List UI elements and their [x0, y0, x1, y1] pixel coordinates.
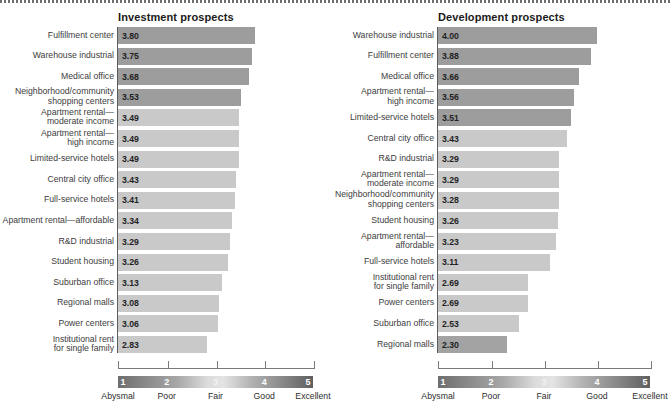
bar-value-label: 3.08 [122, 298, 139, 308]
bar-category-label: Medical office [381, 72, 434, 82]
bar-category-label: Full-service hotels [364, 257, 434, 267]
panel-development-prospects: Development prospects Warehouse industri… [336, 0, 672, 412]
bar-category-label: R&D industrial [58, 237, 114, 247]
bar-category-label: Medical office [61, 72, 114, 82]
scale-word-label: Fair [537, 391, 552, 401]
scale-word-label: Poor [482, 391, 500, 401]
bar-category-label: Suburban office [53, 278, 114, 288]
bar-row: Institutional rent for single family2.83 [0, 336, 336, 353]
bar-row: Full-service hotels3.11 [336, 254, 672, 271]
bar-value-label: 3.49 [122, 154, 139, 164]
bar-value-label: 3.41 [122, 195, 139, 205]
bar-row: Apartment rental— moderate income3.29 [336, 171, 672, 188]
bar-value-label: 3.51 [442, 113, 459, 123]
bar-value-label: 2.30 [442, 340, 459, 350]
bar [438, 27, 597, 44]
bar-value-label: 3.28 [442, 195, 459, 205]
bar-category-label: Warehouse industrial [33, 51, 114, 61]
bar-category-label: Apartment rental—affordable [336, 232, 434, 251]
bar-row: Fulfillment center3.88 [336, 48, 672, 65]
axis-development [438, 361, 652, 369]
bar-category-label: Warehouse industrial [353, 31, 434, 41]
scale-tick-number: 3 [541, 376, 546, 388]
bar-category-label: Apartment rental— high income [361, 88, 434, 107]
bar-value-label: 3.75 [122, 51, 139, 61]
bar-value-label: 3.26 [442, 216, 459, 226]
bar-row: Neighborhood/community shopping centers3… [336, 192, 672, 209]
scale-word-label: Excellent [632, 391, 667, 401]
bar-value-label: 2.83 [122, 340, 139, 350]
scale-tick-number: 2 [488, 376, 493, 388]
bar-row: R&D industrial3.29 [0, 233, 336, 250]
bar-row: Apartment rental— high income3.56 [336, 89, 672, 106]
bar-value-label: 3.13 [122, 278, 139, 288]
bar-row: Central city office3.43 [336, 130, 672, 147]
bar-category-label: Power centers [378, 299, 434, 309]
bar-category-label: Apartment rental— moderate income [361, 170, 434, 189]
scale-tick-number: 3 [213, 376, 218, 388]
bar-value-label: 2.69 [442, 298, 459, 308]
axis-tick [545, 361, 546, 368]
bar-value-label: 3.80 [122, 31, 139, 41]
bar-value-label: 3.88 [442, 51, 459, 61]
bar-value-label: 3.68 [122, 72, 139, 82]
scale-word-label: Abysmal [421, 391, 454, 401]
bar-row: Warehouse industrial4.00 [336, 27, 672, 44]
axis-tick [598, 361, 599, 368]
bar-category-label: Neighborhood/community shopping centers [15, 88, 114, 107]
axis-tick [168, 361, 169, 368]
bar-value-label: 3.66 [442, 72, 459, 82]
bar-row: Student housing3.26 [336, 212, 672, 229]
bar-row: Medical office3.66 [336, 68, 672, 85]
bar-value-label: 3.29 [122, 237, 139, 247]
bar-row: Suburban office2.53 [336, 315, 672, 332]
scale-tick-number: 4 [594, 376, 599, 388]
bar-category-label: Fulfillment center [48, 31, 114, 41]
bar-row: Institutional rent for single family2.69 [336, 274, 672, 291]
bar-category-label: Limited-service hotels [30, 154, 114, 164]
scale-word-label: Excellent [295, 391, 330, 401]
bar-row: Full-service hotels3.41 [0, 192, 336, 209]
bar-category-label: Student housing [51, 257, 114, 267]
bar-row: R&D industrial3.29 [336, 151, 672, 168]
scale-word-label: Good [586, 391, 607, 401]
axis-baseline-development [437, 27, 438, 353]
scale-word-label: Good [254, 391, 275, 401]
bar-row: Suburban office3.13 [0, 274, 336, 291]
bar-row: Warehouse industrial3.75 [0, 48, 336, 65]
bar-category-label: Central city office [48, 175, 114, 185]
bar-value-label: 3.34 [122, 216, 139, 226]
bar-row: Fulfillment center3.80 [0, 27, 336, 44]
axis-tick [217, 361, 218, 368]
bar-row: Apartment rental— moderate income3.49 [0, 109, 336, 126]
bar [438, 68, 579, 85]
axis-tick [492, 361, 493, 368]
panel-title-investment: Investment prospects [118, 11, 234, 23]
bar-value-label: 3.23 [442, 237, 459, 247]
bar [438, 48, 591, 65]
bar-value-label: 3.56 [442, 92, 459, 102]
bar-value-label: 3.53 [122, 92, 139, 102]
scale-legend-investment: 12345 [118, 376, 313, 388]
bar-value-label: 3.29 [442, 154, 459, 164]
bar-row: Apartment rental—affordable3.23 [336, 233, 672, 250]
bar-category-label: Suburban office [373, 319, 434, 329]
bar-row: Apartment rental— high income3.49 [0, 130, 336, 147]
bar-value-label: 2.53 [442, 319, 459, 329]
bar-row: Apartment rental—affordable3.34 [0, 212, 336, 229]
scale-word-label: Abysmal [101, 391, 134, 401]
bar-category-label: Neighborhood/community shopping centers [335, 191, 434, 210]
scale-tick-number: 4 [262, 376, 267, 388]
bar-row: Neighborhood/community shopping centers3… [0, 89, 336, 106]
bar-row: Limited-service hotels3.49 [0, 151, 336, 168]
scale-tick-number: 5 [642, 376, 647, 388]
scale-word-label: Poor [158, 391, 176, 401]
bar-row: Limited-service hotels3.51 [336, 109, 672, 126]
axis-baseline-investment [117, 27, 118, 353]
bar-category-label: Apartment rental— high income [41, 129, 114, 148]
bar-category-label: Regional malls [377, 340, 434, 350]
bar-value-label: 3.49 [122, 113, 139, 123]
axis-investment [118, 361, 315, 369]
axis-tick [265, 361, 266, 368]
bar-value-label: 3.49 [122, 134, 139, 144]
